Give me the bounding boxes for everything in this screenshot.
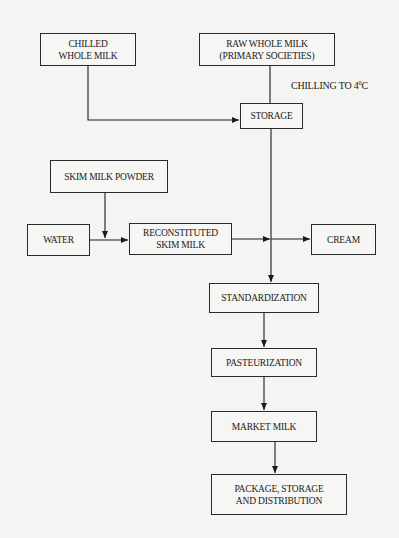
node-label: WATER xyxy=(43,234,74,246)
node-raw-whole-milk: RAW WHOLE MILK (PRIMARY SOCIETIES) xyxy=(199,33,335,66)
node-label: CHILLED WHOLE MILK xyxy=(59,38,118,62)
node-standardization: STANDARDIZATION xyxy=(209,283,319,313)
node-label: PACKAGE, STORAGE AND DISTRIBUTION xyxy=(234,483,323,507)
node-label: STANDARDIZATION xyxy=(221,292,306,304)
node-skim-milk-powder: SKIM MILK POWDER xyxy=(50,160,168,193)
node-label: MARKET MILK xyxy=(232,421,296,433)
node-water: WATER xyxy=(27,224,90,256)
node-label: STORAGE xyxy=(250,110,292,122)
node-label: RAW WHOLE MILK (PRIMARY SOCIETIES) xyxy=(220,38,315,62)
node-market-milk: MARKET MILK xyxy=(211,411,317,442)
chilling-text: CHILLING TO 4 xyxy=(291,80,359,91)
node-reconstituted-skim-milk: RECONSTITUTED SKIM MILK xyxy=(129,223,232,255)
chilling-annotation: CHILLING TO 40C xyxy=(291,80,368,91)
node-cream: CREAM xyxy=(311,224,376,255)
node-chilled-whole-milk: CHILLED WHOLE MILK xyxy=(40,33,136,66)
node-label: RECONSTITUTED SKIM MILK xyxy=(143,227,218,251)
node-pasteurization: PASTEURIZATION xyxy=(211,348,317,377)
node-label: PASTEURIZATION xyxy=(226,357,302,369)
node-package-storage-distribution: PACKAGE, STORAGE AND DISTRIBUTION xyxy=(211,474,347,515)
node-label: CREAM xyxy=(327,234,360,246)
chilling-unit: C xyxy=(361,80,367,91)
node-storage: STORAGE xyxy=(240,103,303,129)
node-label: SKIM MILK POWDER xyxy=(64,171,154,183)
